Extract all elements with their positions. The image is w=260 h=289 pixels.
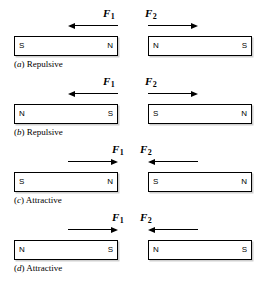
force-label-f1-c: F1 xyxy=(112,144,124,158)
arrowhead-right-icon xyxy=(191,91,198,97)
pole-label-left-end: S xyxy=(108,244,113,256)
force-arrow-f2-b xyxy=(148,90,198,97)
magnet-left-c: S N xyxy=(14,172,118,192)
pole-label-right-end: S xyxy=(242,40,247,52)
pole-label-left-start: N xyxy=(19,244,25,256)
force-arrow-f1-d xyxy=(68,226,118,233)
pole-label-left-end: N xyxy=(107,176,113,188)
pole-label-right-end: N xyxy=(241,176,247,188)
force-label-f2-d: F2 xyxy=(140,212,152,226)
force-arrow-f2-d xyxy=(148,226,198,233)
force-arrow-f2-c xyxy=(148,158,198,165)
magnet-left-b: N S xyxy=(14,104,118,124)
arrowhead-right-icon xyxy=(111,227,118,233)
force-band-d: F1 F2 xyxy=(0,206,260,236)
pole-label-right-start: N xyxy=(153,244,159,256)
magnet-force-figure: F1 F2 S N N S (a) Repulsive xyxy=(0,0,260,289)
pole-label-left-start: N xyxy=(19,108,25,120)
caption-c: (c) Attractive xyxy=(14,195,62,206)
arrow-shaft xyxy=(68,161,112,162)
arrow-shaft xyxy=(68,229,112,230)
caption-b: (b) Repulsive xyxy=(14,127,63,138)
figure-row-a: F1 F2 S N N S (a) Repulsive xyxy=(0,2,260,70)
force-band-a: F1 F2 xyxy=(0,2,260,32)
force-arrow-f1-a xyxy=(68,22,118,29)
arrow-shaft xyxy=(148,25,192,26)
pole-label-left-end: N xyxy=(107,40,113,52)
force-arrow-f1-c xyxy=(68,158,118,165)
arrowhead-right-icon xyxy=(111,159,118,165)
force-arrow-f1-b xyxy=(68,90,118,97)
pole-label-right-start: N xyxy=(153,40,159,52)
force-label-f2-c: F2 xyxy=(140,144,152,158)
magnet-right-c: S N xyxy=(148,172,252,192)
figure-row-c: F1 F2 S N S N (c) Attractive xyxy=(0,138,260,206)
magnet-right-a: N S xyxy=(148,36,252,56)
arrow-shaft xyxy=(154,229,198,230)
force-arrow-f2-a xyxy=(148,22,198,29)
figure-row-d: F1 F2 N S N S (d) Attractive xyxy=(0,206,260,274)
pole-label-right-start: S xyxy=(153,176,158,188)
pole-label-right-end: S xyxy=(242,244,247,256)
force-label-f2-b: F2 xyxy=(145,76,157,90)
arrow-shaft xyxy=(148,93,192,94)
force-label-f2-a: F2 xyxy=(145,8,157,22)
pole-label-right-start: S xyxy=(153,108,158,120)
magnet-left-a: S N xyxy=(14,36,118,56)
arrow-shaft xyxy=(74,25,118,26)
magnet-left-d: N S xyxy=(14,240,118,260)
force-label-f1-b: F1 xyxy=(103,76,115,90)
caption-a: (a) Repulsive xyxy=(14,59,63,70)
arrowhead-right-icon xyxy=(191,23,198,29)
figure-row-b: F1 F2 N S S N (b) Repulsive xyxy=(0,70,260,138)
pole-label-left-start: S xyxy=(19,176,24,188)
pole-label-right-end: N xyxy=(241,108,247,120)
magnet-right-b: S N xyxy=(148,104,252,124)
caption-d: (d) Attractive xyxy=(14,263,62,274)
force-band-c: F1 F2 xyxy=(0,138,260,168)
force-band-b: F1 F2 xyxy=(0,70,260,100)
pole-label-left-end: S xyxy=(108,108,113,120)
arrow-shaft xyxy=(154,161,198,162)
force-label-f1-d: F1 xyxy=(112,212,124,226)
arrow-shaft xyxy=(74,93,118,94)
pole-label-left-start: S xyxy=(19,40,24,52)
magnet-right-d: N S xyxy=(148,240,252,260)
force-label-f1-a: F1 xyxy=(103,8,115,22)
